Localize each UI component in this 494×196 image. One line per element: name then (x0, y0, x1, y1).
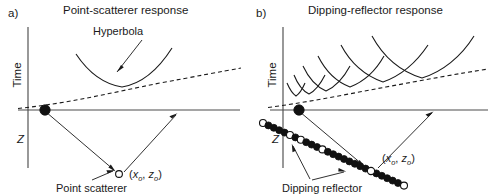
svg-text:(xo, zo): (xo, zo) (382, 152, 415, 167)
panel-a-dashed-event-line (18, 68, 241, 109)
panel-b-reflector-leader-right (312, 168, 346, 180)
panel-a-coordinate-label: (xo, zo) (129, 168, 162, 183)
seismic-response-figure: a) Point-scatterer response Time Z Hyper… (0, 0, 494, 196)
panel-b-time-axis-label: Time (266, 62, 278, 87)
panel-b-coord-close-paren: ) (411, 152, 415, 164)
panel-a-time-axis-label: Time (11, 62, 23, 87)
panel-b: b) Dipping-reflector response Time Z (256, 4, 488, 194)
panel-b-depth-axis-label: Z (271, 133, 280, 145)
panel-b-incident-ray (300, 112, 365, 167)
panel-b-reflector-label: Dipping reflector (282, 182, 362, 194)
panel-b-reflector-leader-left (292, 144, 310, 179)
panel-a-depth-axis-label: Z (16, 133, 25, 145)
panel-a-incident-ray (46, 112, 116, 172)
panel-a-coord-close-paren: ) (158, 168, 162, 180)
panel-a-hyperbola-curve (76, 48, 172, 87)
panel-b-coordinate-label: (xo, zo) (382, 152, 415, 167)
reflector-node (401, 182, 408, 189)
panel-a-point-scatterer-marker (116, 171, 123, 178)
svg-text:(xo, zo): (xo, zo) (129, 168, 162, 183)
figure-root: a) Point-scatterer response Time Z Hyper… (0, 0, 494, 196)
panel-b-label: b) (256, 7, 266, 19)
panel-a-label: a) (8, 7, 18, 19)
panel-b-title: Dipping-reflector response (308, 4, 443, 16)
panel-a-title: Point-scatterer response (63, 4, 188, 16)
panel-b-hyperbola-5 (341, 45, 428, 82)
panel-a-scatterer-leader (92, 170, 115, 180)
panel-b-reflection-point (367, 167, 374, 174)
panel-a-reflected-ray (124, 113, 178, 172)
panel-b-hyperbola-6 (372, 36, 474, 78)
panel-a-hyperbola-label: Hyperbola (93, 25, 144, 37)
panel-a-scatterer-label: Point scatterer (56, 182, 127, 194)
panel-a-hyperbola-leader (117, 40, 142, 72)
panel-a-source-point (40, 105, 50, 115)
panel-a: a) Point-scatterer response Time Z Hyper… (8, 4, 241, 194)
panel-b-source-point (294, 105, 304, 115)
